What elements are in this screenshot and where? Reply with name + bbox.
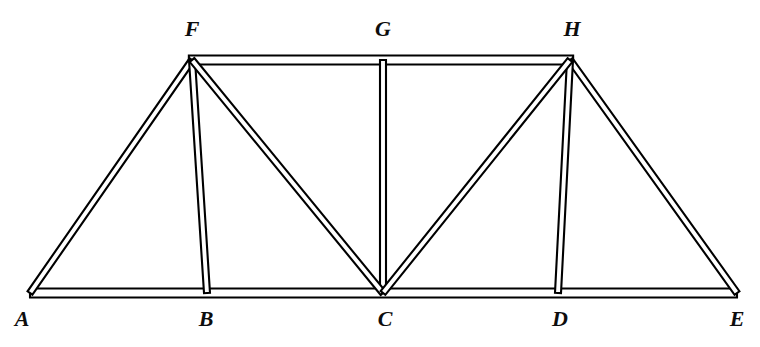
truss-member-gc — [380, 60, 386, 293]
truss-member-fc — [190, 58, 386, 295]
truss-member-hc — [381, 58, 573, 295]
node-label-g: G — [375, 18, 391, 40]
node-label-f: F — [185, 18, 200, 40]
truss-drawing — [0, 0, 760, 347]
truss-member-eh — [568, 58, 740, 295]
node-label-c: C — [378, 308, 393, 330]
node-label-b: B — [199, 308, 214, 330]
node-label-a: A — [15, 308, 30, 330]
node-label-e: E — [730, 308, 745, 330]
node-label-d: D — [552, 308, 568, 330]
truss-member-hd — [555, 60, 573, 293]
truss-member-af — [28, 58, 195, 294]
truss-member-fb — [189, 60, 210, 293]
truss-diagram-figure: ABCDEFGH — [0, 0, 760, 347]
node-label-h: H — [563, 18, 580, 40]
truss-members-group — [28, 56, 740, 298]
